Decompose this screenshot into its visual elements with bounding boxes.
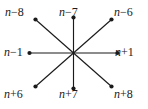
arrowhead-southeast-icon <box>109 84 113 88</box>
node-label-northwest-num: 8 <box>18 5 24 19</box>
arrowhead-southwest-icon <box>33 84 37 88</box>
node-label-northeast-op: − <box>120 5 127 19</box>
node-label-southeast-num: 8 <box>127 87 133 101</box>
node-label-east-num: 1 <box>128 45 134 59</box>
arrow-rays <box>30 18 118 89</box>
node-label-north: n−7 <box>59 6 78 18</box>
node-label-west-num: 1 <box>17 45 23 59</box>
node-label-southwest-op: + <box>10 87 17 101</box>
arrowhead-northwest-icon <box>33 17 37 21</box>
node-label-southeast-op: + <box>120 87 127 101</box>
node-label-south: n+7 <box>59 88 78 100</box>
node-label-north-num: 7 <box>72 5 78 19</box>
node-label-west: n−1 <box>4 46 23 58</box>
node-label-southwest: n+6 <box>4 88 23 100</box>
node-label-south-op: + <box>65 87 72 101</box>
node-label-northeast-num: 6 <box>127 5 133 19</box>
stencil-figure: n−8 n−7 n−6 n−1 n+1 n+6 n+7 n+8 <box>0 0 148 109</box>
node-label-northwest-op: − <box>11 5 18 19</box>
ray-southwest <box>36 53 74 87</box>
arrowhead-west-icon <box>27 51 31 55</box>
ray-northwest <box>36 20 74 54</box>
ray-northeast <box>74 20 112 54</box>
node-label-southwest-num: 6 <box>17 87 23 101</box>
node-label-east: n+1 <box>115 46 134 58</box>
node-label-northwest: n−8 <box>5 6 24 18</box>
node-label-north-op: − <box>65 5 72 19</box>
node-label-west-op: − <box>10 45 17 59</box>
node-label-northeast: n−6 <box>114 6 133 18</box>
ray-southeast <box>74 53 112 87</box>
arrowhead-northeast-icon <box>109 17 113 21</box>
node-label-southeast: n+8 <box>114 88 133 100</box>
node-label-east-op: + <box>121 45 128 59</box>
node-label-south-num: 7 <box>72 87 78 101</box>
